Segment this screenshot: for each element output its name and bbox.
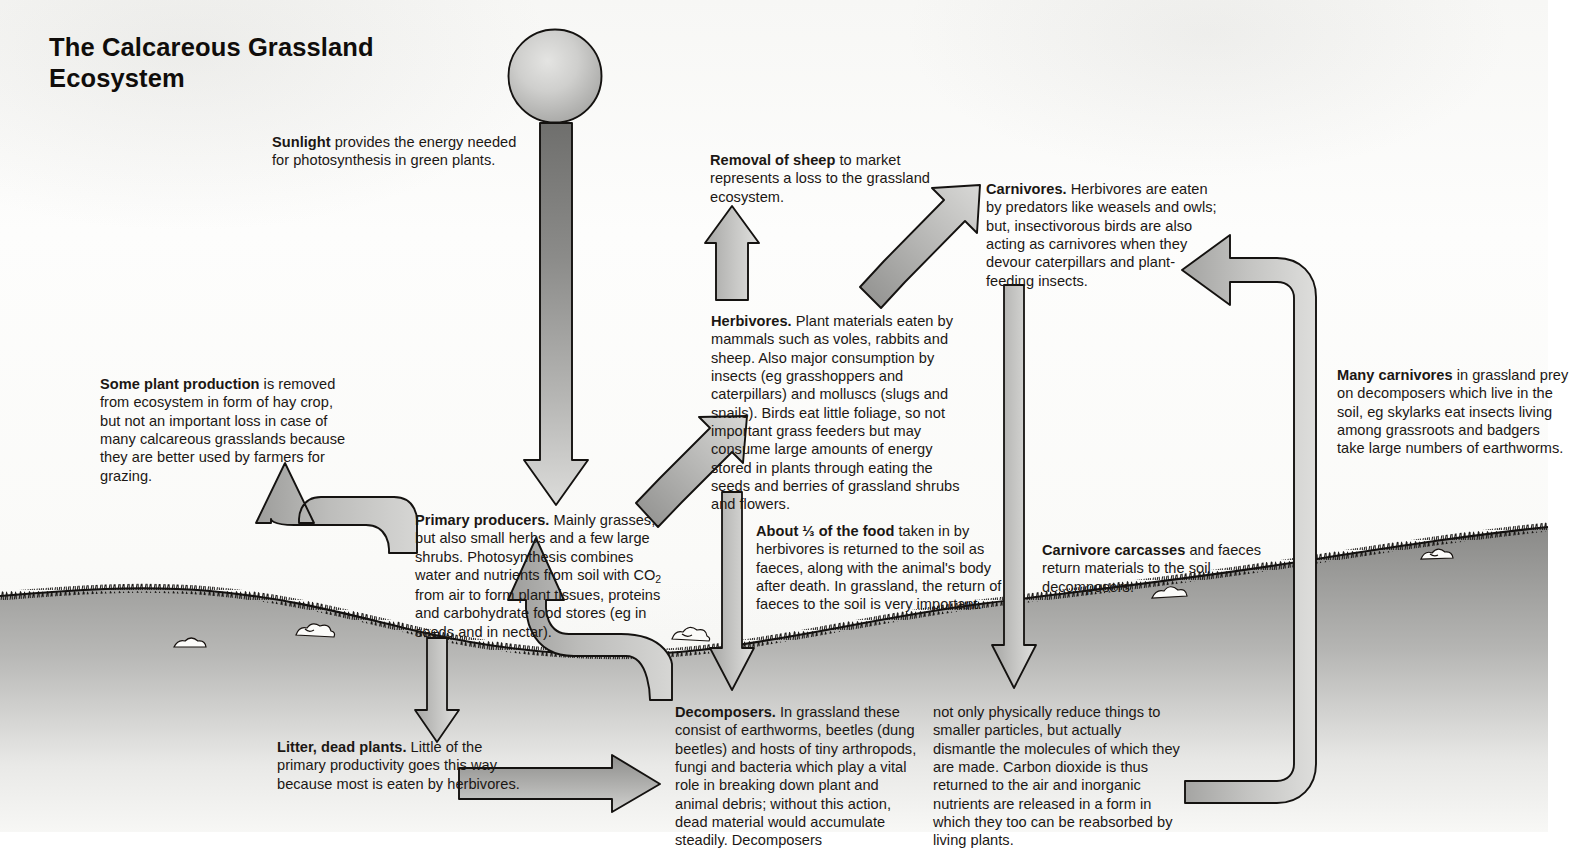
- carnivore-carcasses-caption: Carnivore carcasses and faeces return ma…: [1042, 541, 1287, 596]
- co2-subscript: 2: [655, 573, 661, 585]
- sunlight-caption-lead: Sunlight: [272, 134, 331, 150]
- some-plant-production-caption-lead: Some plant production: [100, 376, 260, 392]
- litter-dead-plants-caption-lead: Litter, dead plants.: [277, 739, 407, 755]
- primary-producers-caption-part2: from air to form plant tissues, proteins…: [415, 587, 660, 640]
- herbivores-to-decomposers-arrow: [710, 492, 754, 690]
- carnivores-caption-lead: Carnivores.: [986, 181, 1067, 197]
- carnivores-caption: Carnivores. Herbivores are eaten by pred…: [986, 180, 1221, 290]
- page-title: The Calcareous Grassland Ecosystem: [49, 32, 469, 95]
- decomposers-caption-column-2: not only physically reduce things to sma…: [933, 703, 1183, 850]
- removal-of-sheep-caption: Removal of sheep to market represents a …: [710, 151, 958, 206]
- carnivores-caption-body: Herbivores are eaten by predators like w…: [986, 181, 1217, 289]
- sunlight-caption: Sunlight provides the energy needed for …: [272, 133, 534, 170]
- decomposers-caption-body: In grassland these consist of earthworms…: [675, 704, 916, 848]
- litter-dead-plants-caption: Litter, dead plants. Little of the prima…: [277, 738, 522, 793]
- about-third-of-food-caption: About ⅓ of the food taken in by herbivor…: [756, 522, 1006, 614]
- some-plant-production-caption-body: is removed from ecosystem in form of hay…: [100, 376, 345, 484]
- sun-icon: [509, 30, 602, 123]
- decomposers-caption-lead: Decomposers.: [675, 704, 776, 720]
- decomposers-caption-column-1: Decomposers. In grassland these consist …: [675, 703, 922, 850]
- primary-producers-caption: Primary producers. Mainly grasses, but a…: [415, 511, 665, 641]
- about-third-of-food-caption-lead: About ⅓ of the food: [756, 523, 894, 539]
- primary-producers-caption-lead: Primary producers.: [415, 512, 549, 528]
- many-carnivores-caption-lead: Many carnivores: [1337, 367, 1453, 383]
- herbivores-caption: Herbivores. Plant materials eaten by mam…: [711, 312, 969, 513]
- decomposers-to-carnivores-return-arrow: [1182, 235, 1316, 803]
- carnivore-carcasses-caption-lead: Carnivore carcasses: [1042, 542, 1185, 558]
- some-plant-production-caption: Some plant production is removed from ec…: [100, 375, 355, 485]
- carnivores-to-decomposers-arrow: [992, 285, 1036, 688]
- herbivores-caption-body: Plant materials eaten by mammals such as…: [711, 313, 960, 512]
- producers-to-litter-arrow: [415, 638, 459, 742]
- decomposers-caption-continuation: not only physically reduce things to sma…: [933, 704, 1180, 848]
- herbivores-caption-lead: Herbivores.: [711, 313, 792, 329]
- herbivores-to-removal-arrow: [705, 206, 759, 300]
- many-carnivores-caption: Many carnivores in grassland prey on dec…: [1337, 366, 1569, 458]
- removal-of-sheep-caption-lead: Removal of sheep: [710, 152, 835, 168]
- sunlight-to-producers-arrow: [524, 123, 588, 505]
